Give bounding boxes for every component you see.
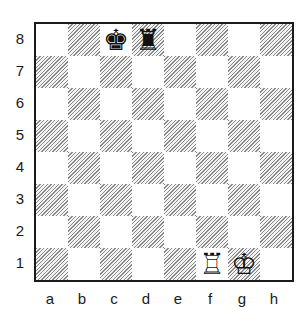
file-label-g: g xyxy=(226,290,258,307)
square-d7 xyxy=(132,56,164,88)
square-a4 xyxy=(36,152,68,184)
file-label-d: d xyxy=(130,290,162,307)
white-rook-icon: ♖ xyxy=(199,248,225,280)
file-label-b: b xyxy=(66,290,98,307)
square-d8: ♜ xyxy=(132,24,164,56)
square-e4 xyxy=(164,152,196,184)
square-h6 xyxy=(260,88,292,120)
square-f7 xyxy=(196,56,228,88)
square-b3 xyxy=(68,184,100,216)
square-f6 xyxy=(196,88,228,120)
square-d2 xyxy=(132,216,164,248)
rank-label-7: 7 xyxy=(0,54,26,86)
square-f2 xyxy=(196,216,228,248)
file-labels: abcdefgh xyxy=(34,290,292,307)
square-b7 xyxy=(68,56,100,88)
square-g1: ♔ xyxy=(228,248,260,280)
file-label-h: h xyxy=(258,290,290,307)
square-f8 xyxy=(196,24,228,56)
rank-label-2: 2 xyxy=(0,214,26,246)
square-f5 xyxy=(196,120,228,152)
square-c6 xyxy=(100,88,132,120)
square-c2 xyxy=(100,216,132,248)
square-a3 xyxy=(36,184,68,216)
square-c8: ♚ xyxy=(100,24,132,56)
square-g7 xyxy=(228,56,260,88)
square-h1 xyxy=(260,248,292,280)
file-label-c: c xyxy=(98,290,130,307)
square-g8 xyxy=(228,24,260,56)
square-g3 xyxy=(228,184,260,216)
square-c5 xyxy=(100,120,132,152)
square-c1 xyxy=(100,248,132,280)
square-h8 xyxy=(260,24,292,56)
square-e6 xyxy=(164,88,196,120)
rank-label-5: 5 xyxy=(0,118,26,150)
square-c3 xyxy=(100,184,132,216)
square-d1 xyxy=(132,248,164,280)
square-d3 xyxy=(132,184,164,216)
chess-board: ♚♜♖♔ xyxy=(34,22,294,282)
square-b5 xyxy=(68,120,100,152)
square-h3 xyxy=(260,184,292,216)
square-b4 xyxy=(68,152,100,184)
square-e8 xyxy=(164,24,196,56)
square-h5 xyxy=(260,120,292,152)
square-f3 xyxy=(196,184,228,216)
square-h7 xyxy=(260,56,292,88)
square-g2 xyxy=(228,216,260,248)
square-e1 xyxy=(164,248,196,280)
white-king-icon: ♔ xyxy=(231,248,257,280)
rank-label-4: 4 xyxy=(0,150,26,182)
square-a1 xyxy=(36,248,68,280)
file-label-e: e xyxy=(162,290,194,307)
square-c7 xyxy=(100,56,132,88)
square-b6 xyxy=(68,88,100,120)
square-h4 xyxy=(260,152,292,184)
square-b2 xyxy=(68,216,100,248)
square-a7 xyxy=(36,56,68,88)
rank-label-3: 3 xyxy=(0,182,26,214)
square-f4 xyxy=(196,152,228,184)
square-b8 xyxy=(68,24,100,56)
square-h2 xyxy=(260,216,292,248)
file-label-a: a xyxy=(34,290,66,307)
square-c4 xyxy=(100,152,132,184)
square-d6 xyxy=(132,88,164,120)
square-e2 xyxy=(164,216,196,248)
rank-label-8: 8 xyxy=(0,22,26,54)
rank-label-1: 1 xyxy=(0,246,26,278)
black-rook-icon: ♜ xyxy=(135,24,161,56)
square-a6 xyxy=(36,88,68,120)
black-king-icon: ♚ xyxy=(103,24,129,56)
square-e5 xyxy=(164,120,196,152)
file-label-f: f xyxy=(194,290,226,307)
square-e7 xyxy=(164,56,196,88)
square-e3 xyxy=(164,184,196,216)
rank-labels: 87654321 xyxy=(0,22,26,278)
square-d5 xyxy=(132,120,164,152)
square-g4 xyxy=(228,152,260,184)
square-g6 xyxy=(228,88,260,120)
square-a8 xyxy=(36,24,68,56)
square-b1 xyxy=(68,248,100,280)
square-a2 xyxy=(36,216,68,248)
square-g5 xyxy=(228,120,260,152)
square-d4 xyxy=(132,152,164,184)
square-a5 xyxy=(36,120,68,152)
square-f1: ♖ xyxy=(196,248,228,280)
rank-label-6: 6 xyxy=(0,86,26,118)
